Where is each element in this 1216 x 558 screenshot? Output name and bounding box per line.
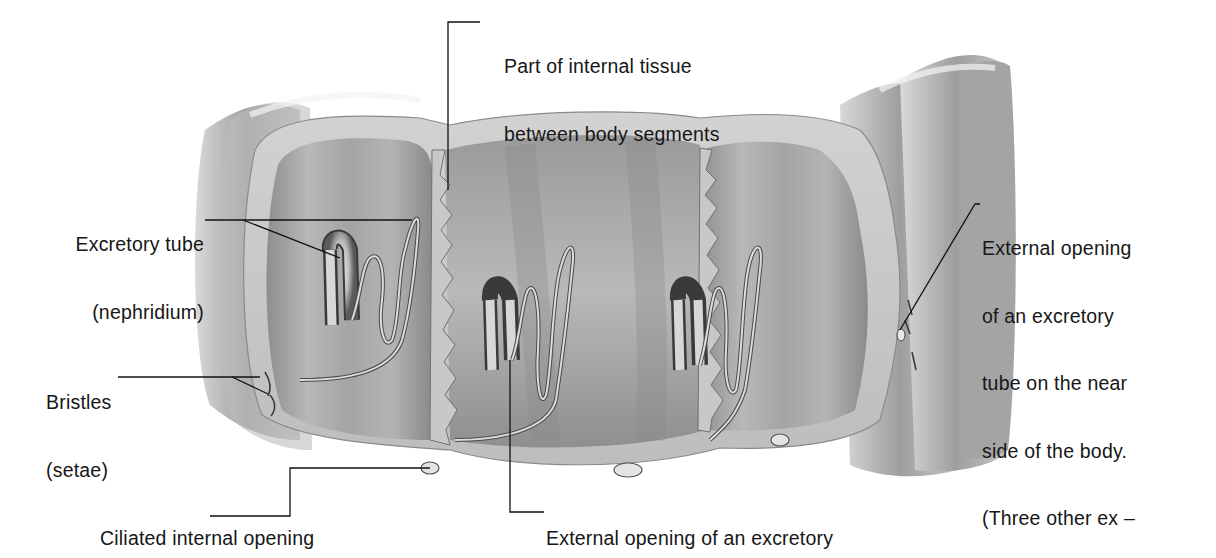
label-septum-line2: between body segments xyxy=(504,123,720,146)
near-side-external-opening xyxy=(897,329,905,341)
label-near-side-line: tube on the near xyxy=(982,372,1143,395)
label-ciliated-opening: Ciliated internal opening of excretory t… xyxy=(100,482,314,558)
label-near-side-line: (Three other ex – xyxy=(982,507,1143,530)
label-far-side-opening: External opening of an excretory tube on… xyxy=(546,482,833,558)
earthworm-excretory-diagram: Part of internal tissue between body seg… xyxy=(0,0,1216,558)
label-near-side-line: side of the body. xyxy=(982,440,1143,463)
label-setae-line2: (setae) xyxy=(46,459,112,482)
label-far-side-opening-line1: External opening of an excretory xyxy=(546,527,833,550)
label-nephridium-line1: Excretory tube xyxy=(40,233,204,256)
label-ciliated-opening-line1: Ciliated internal opening xyxy=(100,527,314,550)
label-near-side-line: of an excretory xyxy=(982,305,1143,328)
label-nephridium-line2: (nephridium) xyxy=(40,301,204,324)
label-septum-line1: Part of internal tissue xyxy=(504,55,720,78)
label-setae-line1: Bristles xyxy=(46,391,112,414)
label-septum: Part of internal tissue between body seg… xyxy=(504,10,720,190)
label-near-side-line: External opening xyxy=(982,237,1143,260)
right-open-segment xyxy=(700,142,868,431)
label-nephridium: Excretory tube (nephridium) xyxy=(40,188,204,368)
label-near-side-opening: External opening of an excretory tube on… xyxy=(982,192,1143,558)
